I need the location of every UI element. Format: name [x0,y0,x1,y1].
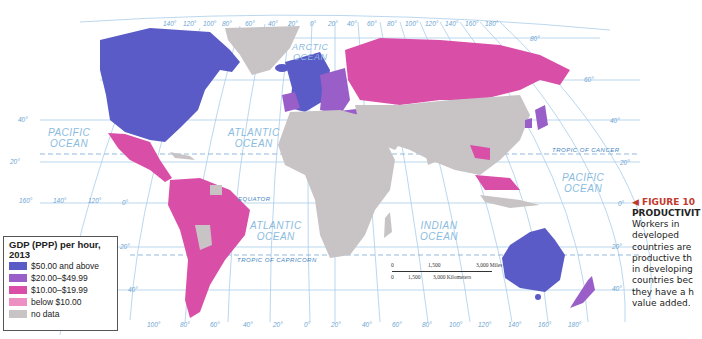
tropic-cancer-label: TROPIC OF CANCER [552,147,620,153]
legend-title: GDP (PPP) per hour, 2013 [9,240,112,260]
ocean-label-indian: INDIAN OCEAN [420,220,458,242]
legend-swatch [9,310,27,318]
europe-east [320,68,350,115]
ocean-label-arctic: ARCTIC OCEAN [292,42,329,62]
north-america [100,28,240,142]
ocean-label-atlantic-north: ATLANTIC OCEAN [228,127,280,149]
caption-heading: PRODUCTIVIT [632,208,702,219]
equator-label: EQUATOR [238,196,271,202]
new-zealand [570,276,595,308]
legend-item: below $10.00 [9,297,112,309]
scale-bar: 0 1,500 3,000 Miles 0 1,500 3,000 Kilome… [388,262,498,287]
legend-item: $10.00–$19.99 [9,285,112,297]
legend-swatch [9,262,27,270]
japan [535,105,548,130]
ocean-label-pacific-west: PACIFIC OCEAN [48,127,90,149]
russia [345,38,570,105]
legend-swatch [9,286,27,294]
legend-item: $20.00–$49.99 [9,273,112,285]
ocean-label-pacific-east: PACIFIC OCEAN [562,172,604,194]
ocean-label-atlantic-south: ATLANTIC OCEAN [250,220,302,242]
figure-caption: ◀ FIGURE 10 PRODUCTIVIT Workers in devel… [632,197,702,309]
legend: GDP (PPP) per hour, 2013 $50.00 and abov… [3,236,118,331]
australia [502,228,565,292]
legend-item: no data [9,309,112,321]
figure-number: ◀ FIGURE 10 [632,197,702,208]
scale-line [392,271,492,272]
legend-swatch [9,274,27,282]
legend-swatch [9,298,27,306]
legend-item: $50.00 and above [9,261,112,273]
tropic-capricorn-label: TROPIC OF CAPRICORN [237,257,317,263]
caption-body: Workers in developed countries are produ… [632,219,702,309]
